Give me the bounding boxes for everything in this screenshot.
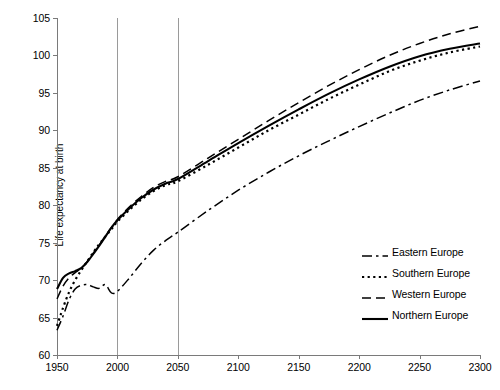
chart-legend: Eastern EuropeSouthern EuropeWestern Eur… [362, 246, 470, 321]
legend-line-sample-icon [362, 310, 388, 320]
y-tick-label: 60 [39, 349, 50, 361]
x-tick-mark [299, 355, 300, 359]
x-tick-mark [178, 355, 179, 359]
legend-line-sample-icon [362, 268, 388, 278]
y-tick-label: 90 [39, 124, 50, 136]
legend-label: Southern Europe [392, 267, 470, 279]
x-tick-mark [420, 355, 421, 359]
y-tick-label: 85 [39, 162, 50, 174]
x-tick-mark [359, 355, 360, 359]
y-tick-label: 95 [39, 87, 50, 99]
legend-item-eastern-europe[interactable]: Eastern Europe [362, 246, 470, 258]
y-tick-label: 100 [33, 49, 50, 61]
life-expectancy-line-chart: Life expectancy at birth 606570758085909… [0, 0, 500, 390]
legend-label: Eastern Europe [392, 246, 464, 258]
legend-line-sample-icon [362, 289, 388, 299]
x-tick-label: 2200 [348, 361, 371, 373]
x-axis-line [57, 355, 480, 356]
x-tick-mark [238, 355, 239, 359]
legend-item-northern-europe[interactable]: Northern Europe [362, 309, 470, 321]
x-tick-label: 1950 [46, 361, 69, 373]
y-tick-label: 75 [39, 237, 50, 249]
x-tick-label: 2300 [469, 361, 492, 373]
x-tick-label: 2150 [287, 361, 310, 373]
y-tick-label: 65 [39, 312, 50, 324]
legend-item-southern-europe[interactable]: Southern Europe [362, 267, 470, 279]
x-tick-mark [480, 355, 481, 359]
x-tick-label: 2250 [408, 361, 431, 373]
x-tick-mark [57, 355, 58, 359]
x-tick-label: 2000 [106, 361, 129, 373]
y-tick-label: 80 [39, 199, 50, 211]
legend-item-western-europe[interactable]: Western Europe [362, 288, 470, 300]
y-tick-label: 105 [33, 12, 50, 24]
legend-label: Western Europe [392, 288, 466, 300]
x-tick-mark [117, 355, 118, 359]
y-tick-label: 70 [39, 274, 50, 286]
legend-line-sample-icon [362, 247, 388, 257]
x-tick-label: 2100 [227, 361, 250, 373]
legend-label: Northern Europe [392, 309, 468, 321]
x-tick-label: 2050 [166, 361, 189, 373]
